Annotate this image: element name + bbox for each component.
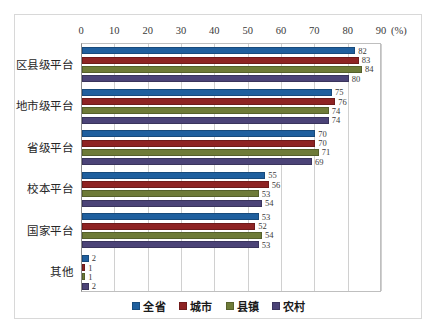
bar-row: 80 bbox=[82, 75, 380, 82]
bar-group: 70707169 bbox=[82, 127, 380, 169]
legend-label: 农村 bbox=[283, 298, 306, 314]
x-tick-label-10: 10 bbox=[109, 25, 120, 36]
bar-全省-省级平台[interactable] bbox=[82, 130, 315, 137]
y-category-label-国家平台: 国家平台 bbox=[27, 222, 73, 238]
bar-城市-国家平台[interactable] bbox=[82, 223, 255, 230]
chart-legend: 全省城市县镇农村 bbox=[15, 298, 423, 314]
bar-row: 54 bbox=[82, 232, 380, 239]
x-tick-label-80: 80 bbox=[342, 25, 353, 36]
legend-label: 县镇 bbox=[237, 298, 260, 314]
bar-城市-区县级平台[interactable] bbox=[82, 57, 359, 64]
bar-全省-其他[interactable] bbox=[82, 255, 89, 262]
bar-group: 82838480 bbox=[82, 44, 380, 86]
bar-农村-省级平台[interactable] bbox=[82, 158, 312, 165]
y-axis-category-labels: 区县级平台地市级平台省级平台校本平台国家平台其他 bbox=[15, 43, 77, 292]
bar-row: 55 bbox=[82, 172, 380, 179]
y-category-label-省级平台: 省级平台 bbox=[27, 139, 73, 155]
bar-row: 83 bbox=[82, 57, 380, 64]
bar-农村-区县级平台[interactable] bbox=[82, 75, 349, 82]
bar-value-label: 80 bbox=[349, 74, 361, 84]
bar-value-label: 74 bbox=[329, 115, 341, 125]
bar-县镇-区县级平台[interactable] bbox=[82, 66, 362, 73]
plot-area: 8283848075767474707071695556535453525453… bbox=[81, 43, 381, 292]
bar-value-label: 69 bbox=[312, 157, 324, 167]
bar-农村-其他[interactable] bbox=[82, 283, 89, 290]
legend-item-农村[interactable]: 农村 bbox=[272, 298, 306, 314]
x-axis-tick-labels: 0102030405060708090(%) bbox=[15, 25, 423, 41]
legend-item-全省[interactable]: 全省 bbox=[132, 298, 166, 314]
chart-frame: 0102030405060708090(%) 区县级平台地市级平台省级平台校本平… bbox=[14, 14, 422, 319]
bar-row: 69 bbox=[82, 158, 380, 165]
bar-value-label: 56 bbox=[269, 180, 281, 190]
bar-row: 82 bbox=[82, 47, 380, 54]
bar-group: 55565354 bbox=[82, 169, 380, 211]
legend-item-县镇[interactable]: 县镇 bbox=[226, 298, 260, 314]
legend-label: 全省 bbox=[143, 298, 166, 314]
bar-农村-校本平台[interactable] bbox=[82, 200, 262, 207]
y-category-label-地市级平台: 地市级平台 bbox=[16, 97, 74, 113]
bar-value-label: 54 bbox=[262, 198, 274, 208]
x-tick-label-90: 90 bbox=[376, 25, 387, 36]
bar-县镇-国家平台[interactable] bbox=[82, 232, 262, 239]
gridline-90 bbox=[381, 44, 382, 291]
bar-row: 76 bbox=[82, 98, 380, 105]
bar-row: 54 bbox=[82, 200, 380, 207]
bar-row: 53 bbox=[82, 190, 380, 197]
bar-row: 74 bbox=[82, 107, 380, 114]
bar-城市-省级平台[interactable] bbox=[82, 140, 315, 147]
x-tick-label-70: 70 bbox=[309, 25, 320, 36]
y-category-label-区县级平台: 区县级平台 bbox=[16, 56, 74, 72]
legend-swatch-icon bbox=[272, 302, 280, 310]
bar-row: 74 bbox=[82, 117, 380, 124]
bar-全省-国家平台[interactable] bbox=[82, 213, 259, 220]
bar-row: 1 bbox=[82, 264, 380, 271]
x-tick-label-60: 60 bbox=[276, 25, 287, 36]
bar-value-label: 2 bbox=[89, 281, 96, 291]
bar-group: 2112 bbox=[82, 252, 380, 294]
x-tick-label-50: 50 bbox=[242, 25, 253, 36]
bar-row: 53 bbox=[82, 213, 380, 220]
bar-农村-国家平台[interactable] bbox=[82, 241, 259, 248]
y-category-label-其他: 其他 bbox=[50, 263, 73, 279]
bar-row: 70 bbox=[82, 130, 380, 137]
legend-item-城市[interactable]: 城市 bbox=[179, 298, 213, 314]
bar-row: 2 bbox=[82, 255, 380, 262]
bar-row: 56 bbox=[82, 181, 380, 188]
bar-row: 1 bbox=[82, 273, 380, 280]
bar-全省-校本平台[interactable] bbox=[82, 172, 265, 179]
legend-label: 城市 bbox=[190, 298, 213, 314]
bar-城市-校本平台[interactable] bbox=[82, 181, 269, 188]
bar-group: 75767474 bbox=[82, 86, 380, 128]
y-category-label-校本平台: 校本平台 bbox=[27, 180, 73, 196]
x-tick-label-0: 0 bbox=[78, 25, 83, 36]
x-tick-label-40: 40 bbox=[209, 25, 220, 36]
bar-全省-区县级平台[interactable] bbox=[82, 47, 355, 54]
bar-row: 2 bbox=[82, 283, 380, 290]
bar-row: 52 bbox=[82, 223, 380, 230]
bar-农村-地市级平台[interactable] bbox=[82, 117, 329, 124]
bar-value-label: 84 bbox=[362, 64, 374, 74]
legend-swatch-icon bbox=[226, 302, 234, 310]
legend-swatch-icon bbox=[132, 302, 140, 310]
legend-swatch-icon bbox=[179, 302, 187, 310]
bar-县镇-省级平台[interactable] bbox=[82, 149, 319, 156]
x-axis-unit-label: (%) bbox=[391, 25, 407, 36]
bar-县镇-地市级平台[interactable] bbox=[82, 107, 329, 114]
bar-row: 70 bbox=[82, 140, 380, 147]
bar-row: 53 bbox=[82, 241, 380, 248]
bar-row: 71 bbox=[82, 149, 380, 156]
bar-城市-地市级平台[interactable] bbox=[82, 98, 335, 105]
bar-全省-地市级平台[interactable] bbox=[82, 89, 332, 96]
bar-row: 75 bbox=[82, 89, 380, 96]
bar-县镇-校本平台[interactable] bbox=[82, 190, 259, 197]
x-tick-label-20: 20 bbox=[142, 25, 153, 36]
bar-value-label: 53 bbox=[259, 240, 271, 250]
bar-group: 53525453 bbox=[82, 210, 380, 252]
bar-row: 84 bbox=[82, 66, 380, 73]
x-tick-label-30: 30 bbox=[176, 25, 187, 36]
